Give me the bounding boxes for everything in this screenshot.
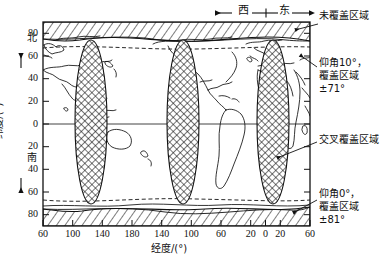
annotation-elev0-line3: ±81°: [319, 214, 345, 225]
y-axis-south-label: 南: [25, 152, 36, 162]
y-tick-label-1: 60: [16, 50, 38, 61]
cross-coverage-oval-3: [257, 40, 289, 204]
x-tick-label-10: 60: [298, 228, 322, 239]
plot-area-contents: [43, 22, 310, 226]
y-tick-label-6: 40: [16, 163, 38, 174]
x-tick-label-0: 60: [31, 228, 55, 239]
annotation-elev10-line2: 覆盖区域: [319, 70, 359, 81]
x-tick-label-4: 140: [150, 228, 174, 239]
x-tick-label-5: 100: [179, 228, 203, 239]
x-tick-label-3: 180: [120, 228, 144, 239]
cross-coverage-oval-1: [75, 40, 107, 204]
x-tick-label-2: 140: [90, 228, 114, 239]
y-tick-label-4: 0: [16, 118, 38, 129]
y-tick-label-2: 40: [16, 72, 38, 83]
annotation-elev0-line1: 仰角0°，: [319, 188, 360, 199]
y-axis-title: 纬度/(°): [0, 103, 5, 139]
annotation-uncovered: 未覆盖区域: [319, 10, 369, 21]
y-tick-label-3: 20: [16, 95, 38, 106]
y-tick-label-8: 80: [16, 208, 38, 219]
direction-legend-arrows: [215, 9, 309, 18]
legend-west-label: 西: [238, 5, 249, 17]
x-axis-title: 经度/(°): [151, 243, 187, 254]
annotation-cross-coverage: 交叉覆盖区域: [319, 134, 379, 145]
annotation-elev10-line3: ±71°: [319, 83, 345, 94]
x-tick-label-6: 60: [209, 228, 233, 239]
cross-coverage-oval-2: [167, 40, 199, 204]
y-tick-label-5: 20: [16, 140, 38, 151]
y-axis-north-label: 北: [25, 32, 36, 42]
legend-east-label: 东: [279, 5, 290, 17]
x-tick-label-1: 100: [61, 228, 85, 239]
x-tick-label-9: 20: [268, 228, 292, 239]
annotation-elev0-line2: 覆盖区域: [319, 201, 359, 212]
annotation-elev10-line1: 仰角10°，: [319, 57, 367, 68]
y-tick-label-7: 60: [16, 186, 38, 197]
